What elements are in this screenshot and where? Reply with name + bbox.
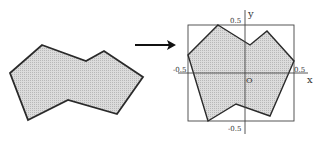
tick-label-y-pos: 0.5 (230, 17, 241, 25)
x-axis-label: x (307, 74, 313, 85)
tick-label-x-neg: -0.5 (173, 66, 187, 74)
source-polygon (10, 45, 143, 120)
y-axis-label: y (247, 8, 254, 19)
transform-arrow-icon (135, 40, 176, 50)
tick-label-x-pos: 0.5 (294, 66, 305, 74)
origin-label: O (246, 76, 253, 85)
tick-label-y-neg: -0.5 (228, 125, 242, 133)
normalization-diagram: y x O 0.5 -0.5 -0.5 0.5 (0, 0, 319, 143)
